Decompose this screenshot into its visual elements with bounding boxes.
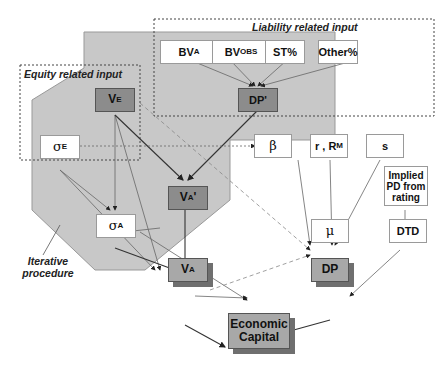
node-implied-pd: Implied PD from rating	[384, 166, 428, 206]
node-v-a: VA	[168, 258, 208, 282]
node-sigma-e: σE	[40, 135, 80, 159]
node-beta: β	[254, 134, 292, 158]
node-other-pct: Other%	[318, 40, 358, 64]
node-st-pct: ST%	[265, 40, 305, 64]
node-v-e: VE	[95, 88, 135, 112]
node-sigma-a: σA	[96, 214, 136, 238]
liability-group-label: Liability related input	[252, 21, 358, 33]
node-bv-obs: BVOBS	[212, 40, 270, 64]
node-s: s	[366, 134, 404, 158]
iterative-procedure-label: Iterative procedure	[22, 255, 74, 279]
node-dp-prime: DP'	[238, 88, 278, 112]
node-dtd: DTD	[389, 219, 427, 243]
node-bv-a: BVA	[160, 40, 218, 64]
node-dp: DP	[311, 258, 349, 282]
equity-group-label: Equity related input	[24, 68, 122, 80]
node-v-a-prime: VA'	[168, 186, 208, 210]
node-economic-capital: Economic Capital	[228, 313, 290, 349]
node-r-rm: r , RM	[310, 134, 348, 158]
node-mu: μ	[311, 219, 349, 243]
